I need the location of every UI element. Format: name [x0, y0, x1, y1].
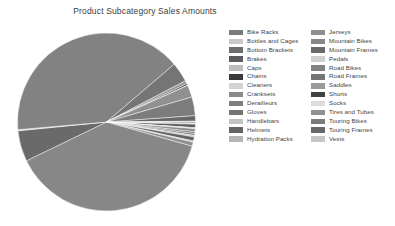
legend-item-label: Mountain Frames [329, 46, 378, 55]
legend-swatch-icon [229, 83, 243, 89]
legend-swatch-icon [311, 30, 325, 36]
legend-item[interactable]: Mountain Bikes [311, 37, 378, 46]
pie-chart-figure: Product Subcategory Sales Amounts Bike R… [0, 0, 395, 226]
legend-swatch-icon [229, 127, 243, 133]
legend-swatch-icon [311, 56, 325, 62]
legend-item-label: Caps [247, 64, 262, 73]
legend-column-left: Bike RacksBottles and CagesBottom Bracke… [229, 28, 298, 144]
legend-item-label: Vests [329, 135, 344, 144]
legend-item[interactable]: Touring Bikes [311, 117, 378, 126]
legend-item[interactable]: Road Frames [311, 72, 378, 81]
legend-swatch-icon [311, 65, 325, 71]
legend-swatch-icon [229, 74, 243, 80]
pie-slice-group [17, 33, 195, 211]
legend: Bike RacksBottles and CagesBottom Bracke… [229, 28, 395, 148]
legend-item[interactable]: Pedals [311, 55, 378, 64]
legend-item[interactable]: Jerseys [311, 28, 378, 37]
legend-swatch-icon [311, 92, 325, 98]
legend-item-label: Touring Frames [329, 126, 373, 135]
chart-title: Product Subcategory Sales Amounts [0, 6, 290, 16]
legend-swatch-icon [311, 127, 325, 133]
legend-swatch-icon [311, 39, 325, 45]
legend-item-label: Hydration Packs [247, 135, 293, 144]
legend-swatch-icon [229, 92, 243, 98]
legend-swatch-icon [229, 30, 243, 36]
legend-item-label: Road Frames [329, 72, 367, 81]
legend-swatch-icon [229, 56, 243, 62]
legend-item[interactable]: Cranksets [229, 90, 298, 99]
legend-item[interactable]: Touring Frames [311, 126, 378, 135]
legend-item[interactable]: Helmets [229, 126, 298, 135]
legend-item-label: Road Bikes [329, 64, 361, 73]
legend-item[interactable]: Bottom Brackets [229, 46, 298, 55]
legend-item[interactable]: Road Bikes [311, 64, 378, 73]
legend-swatch-icon [229, 39, 243, 45]
legend-item[interactable]: Caps [229, 64, 298, 73]
legend-swatch-icon [229, 65, 243, 71]
legend-item-label: Chains [247, 72, 267, 81]
legend-item-label: Helmets [247, 126, 270, 135]
legend-item-label: Cranksets [247, 90, 275, 99]
legend-swatch-icon [311, 74, 325, 80]
legend-swatch-icon [311, 101, 325, 107]
legend-item[interactable]: Mountain Frames [311, 46, 378, 55]
legend-swatch-icon [229, 47, 243, 53]
legend-column-right: JerseysMountain BikesMountain FramesPeda… [311, 28, 378, 144]
legend-item-label: Brakes [247, 55, 267, 64]
legend-item-label: Shorts [329, 90, 347, 99]
legend-item-label: Pedals [329, 55, 348, 64]
legend-swatch-icon [311, 119, 325, 125]
legend-item-label: Socks [329, 99, 346, 108]
legend-item-label: Bike Racks [247, 28, 278, 37]
legend-swatch-icon [311, 110, 325, 116]
legend-item-label: Mountain Bikes [329, 37, 372, 46]
legend-item-label: Saddles [329, 81, 352, 90]
legend-item[interactable]: Gloves [229, 108, 298, 117]
legend-item[interactable]: Shorts [311, 90, 378, 99]
legend-item-label: Bottom Brackets [247, 46, 293, 55]
legend-swatch-icon [311, 47, 325, 53]
legend-swatch-icon [229, 110, 243, 116]
legend-item[interactable]: Hydration Packs [229, 135, 298, 144]
legend-item-label: Touring Bikes [329, 117, 367, 126]
legend-item[interactable]: Saddles [311, 81, 378, 90]
legend-item[interactable]: Chains [229, 72, 298, 81]
legend-item-label: Jerseys [329, 28, 351, 37]
legend-item-label: Tires and Tubes [329, 108, 374, 117]
legend-swatch-icon [229, 119, 243, 125]
legend-item[interactable]: Brakes [229, 55, 298, 64]
legend-item-label: Cleaners [247, 81, 272, 90]
legend-item-label: Gloves [247, 108, 267, 117]
legend-item-label: Derailleurs [247, 99, 277, 108]
legend-item[interactable]: Bottles and Cages [229, 37, 298, 46]
legend-item[interactable]: Socks [311, 99, 378, 108]
legend-swatch-icon [311, 136, 325, 142]
legend-item[interactable]: Vests [311, 135, 378, 144]
pie-plot-area [10, 28, 205, 218]
legend-item[interactable]: Cleaners [229, 81, 298, 90]
legend-item[interactable]: Handlebars [229, 117, 298, 126]
legend-swatch-icon [229, 101, 243, 107]
legend-item[interactable]: Tires and Tubes [311, 108, 378, 117]
legend-item[interactable]: Derailleurs [229, 99, 298, 108]
legend-item-label: Bottles and Cages [247, 37, 298, 46]
legend-item-label: Handlebars [247, 117, 279, 126]
pie-svg [10, 28, 205, 218]
legend-swatch-icon [229, 136, 243, 142]
legend-swatch-icon [311, 83, 325, 89]
legend-item[interactable]: Bike Racks [229, 28, 298, 37]
